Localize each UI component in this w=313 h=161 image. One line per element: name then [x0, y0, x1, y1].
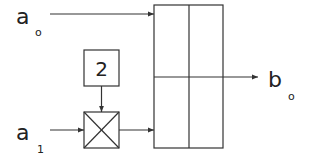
- output-b0-subscript: o: [288, 90, 295, 103]
- input-a0-letter: a: [16, 4, 29, 29]
- input-a0-label: a o: [16, 4, 42, 39]
- input-a1-letter: a: [16, 120, 29, 145]
- diagram-canvas: a o 2 a 1 b o: [0, 0, 313, 161]
- constant-box: 2: [84, 50, 119, 86]
- input-a1-subscript: 1: [37, 143, 44, 156]
- main-block: [154, 5, 223, 148]
- multiplier-box: [84, 112, 119, 148]
- output-b0-letter: b: [268, 67, 282, 92]
- input-a0-subscript: o: [35, 26, 42, 39]
- input-a1-label: a 1: [16, 120, 44, 156]
- constant-box-label: 2: [95, 57, 108, 81]
- output-b0-label: b o: [268, 67, 295, 103]
